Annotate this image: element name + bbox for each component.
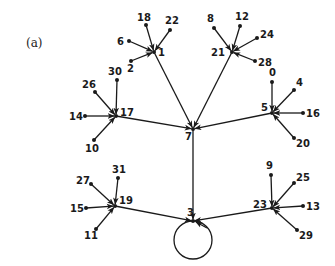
node-label-5: 5	[261, 102, 268, 113]
node-label-14: 14	[69, 111, 83, 122]
node-31	[116, 176, 120, 180]
node-label-31: 31	[112, 164, 126, 175]
node-label-15: 15	[70, 203, 84, 214]
node-12	[238, 24, 242, 28]
node-4	[292, 88, 296, 92]
node-28	[253, 59, 257, 63]
edge-19-to-3	[115, 206, 191, 221]
edge-4-to-5	[273, 90, 294, 112]
node-label-25: 25	[296, 172, 310, 183]
node-label-24: 24	[260, 29, 274, 40]
node-label-28: 28	[258, 57, 272, 68]
node-label-7: 7	[185, 131, 192, 142]
node-label-18: 18	[137, 12, 151, 23]
node-18	[144, 23, 148, 27]
node-6	[127, 39, 131, 43]
node-label-6: 6	[117, 36, 124, 47]
node-label-16: 16	[306, 108, 320, 119]
node-9	[269, 173, 273, 177]
node-8	[212, 26, 216, 30]
edge-24-to-21	[234, 38, 257, 51]
edge-21-to-7	[194, 52, 232, 127]
node-label-9: 9	[266, 160, 273, 171]
node-label-29: 29	[299, 230, 313, 241]
functional-graph-diagram: (a) 012345678910111213141516171819202122…	[0, 0, 335, 266]
edge-11-to-19	[96, 208, 114, 229]
edge-27-to-19	[91, 184, 114, 205]
node-label-4: 4	[296, 77, 303, 88]
edge-12-to-21	[233, 26, 240, 50]
node-label-12: 12	[235, 11, 249, 22]
edge-5-to-7	[195, 113, 272, 129]
node-22	[168, 28, 172, 32]
panel-label: (a)	[26, 36, 43, 50]
node-label-22: 22	[165, 15, 179, 26]
node-10	[92, 138, 96, 142]
node-14	[83, 114, 87, 118]
edge-29-to-23	[274, 209, 297, 230]
node-17	[114, 114, 118, 118]
node-label-19: 19	[119, 195, 133, 206]
edge-18-to-1	[146, 25, 153, 50]
node-label-10: 10	[85, 143, 99, 154]
node-0	[270, 80, 274, 84]
edge-26-to-17	[95, 92, 115, 114]
node-30	[115, 78, 119, 82]
edge-20-to-5	[273, 115, 294, 138]
node-label-27: 27	[76, 175, 90, 186]
edge-25-to-23	[273, 183, 294, 206]
node-label-26: 26	[82, 79, 96, 90]
node-1	[152, 50, 156, 54]
node-label-21: 21	[211, 47, 225, 58]
edge-2-to-1	[131, 53, 152, 61]
node-16	[301, 111, 305, 115]
node-19	[113, 204, 117, 208]
node-21	[230, 50, 234, 54]
node-24	[255, 36, 259, 40]
node-label-17: 17	[120, 107, 134, 118]
node-label-0: 0	[269, 67, 276, 78]
edge-13-to-23	[274, 206, 303, 208]
node-5	[270, 111, 274, 115]
node-label-20: 20	[296, 138, 310, 149]
node-23	[270, 206, 274, 210]
node-label-13: 13	[306, 201, 320, 212]
edge-10-to-17	[94, 117, 115, 140]
node-3	[191, 219, 195, 223]
node-label-1: 1	[158, 47, 165, 58]
edge-15-to-19	[86, 206, 113, 208]
node-label-8: 8	[207, 13, 214, 24]
node-label-3: 3	[187, 207, 194, 218]
node-13	[301, 204, 305, 208]
edge-31-to-19	[115, 178, 118, 204]
edge-self-loop-3	[174, 221, 212, 259]
node-15	[84, 206, 88, 210]
edge-9-to-23	[271, 175, 272, 206]
edge-28-to-21	[234, 53, 255, 61]
node-label-2: 2	[127, 63, 134, 74]
node-label-11: 11	[84, 230, 98, 241]
edge-6-to-1	[129, 41, 152, 51]
node-26	[93, 90, 97, 94]
edge-1-to-7	[154, 52, 192, 127]
edge-30-to-17	[116, 80, 117, 114]
node-label-30: 30	[108, 66, 122, 77]
node-label-23: 23	[253, 199, 267, 210]
